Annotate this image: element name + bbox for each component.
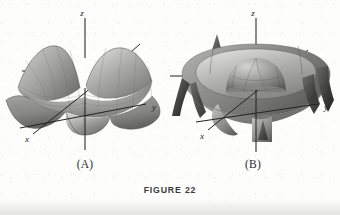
axis-label-z-a: z bbox=[79, 8, 84, 18]
surface-plot-b: z y x bbox=[166, 0, 340, 162]
figure-page: z y x (A) bbox=[0, 0, 340, 215]
figure-panel-b: z y x (B) bbox=[166, 0, 340, 185]
axis-label-x-b: x bbox=[199, 131, 204, 141]
surface-plot-a: z y x bbox=[0, 0, 170, 162]
surface-mesh-a bbox=[6, 46, 160, 135]
axis-label-y-a: y bbox=[151, 102, 156, 112]
axis-label-z-b: z bbox=[250, 8, 255, 18]
figure-panel-a: z y x (A) bbox=[0, 0, 170, 185]
panel-label-b: (B) bbox=[166, 158, 340, 170]
paper-bottom-shading bbox=[0, 199, 340, 215]
surface-mesh-b bbox=[172, 34, 334, 142]
axis-label-y-b: y bbox=[323, 102, 328, 112]
figure-caption: FIGURE 22 bbox=[14, 184, 327, 195]
spike-left-outer-b bbox=[172, 78, 190, 116]
axis-label-x-a: x bbox=[24, 134, 29, 144]
panel-label-a: (A) bbox=[0, 158, 170, 170]
